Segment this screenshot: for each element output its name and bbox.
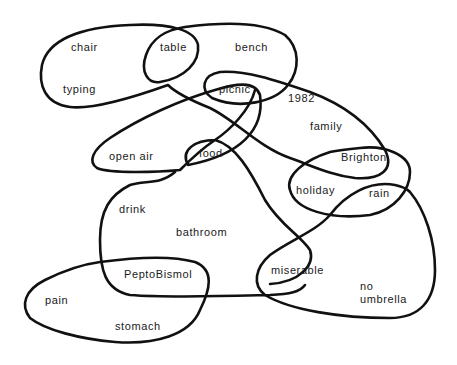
label-rain: rain [369, 187, 390, 199]
label-brighton: Brighton [341, 151, 387, 163]
label-food: food [199, 147, 223, 159]
label-1982: 1982 [288, 92, 315, 104]
label-family: family [310, 120, 342, 132]
label-pepto-bismol: PeptoBismol [124, 268, 192, 280]
label-umbrella: umbrella [360, 293, 407, 305]
label-open-air: open air [109, 150, 154, 162]
loop-openair-picnic-food [92, 85, 311, 284]
label-miserable: miserable [271, 264, 324, 276]
association-diagram: chair table bench typing picnic 1982 fam… [0, 0, 457, 365]
label-holiday: holiday [296, 184, 335, 196]
label-no: no [360, 280, 373, 292]
label-picnic: picnic [219, 83, 251, 95]
label-stomach: stomach [115, 320, 161, 332]
label-bathroom: bathroom [176, 226, 227, 238]
label-table: table [160, 41, 187, 53]
label-chair: chair [71, 41, 98, 53]
loop-miserable-umbrella [257, 184, 435, 318]
label-bench: bench [235, 41, 268, 53]
label-typing: typing [63, 83, 96, 95]
label-pain: pain [45, 294, 68, 306]
label-drink: drink [119, 203, 146, 215]
